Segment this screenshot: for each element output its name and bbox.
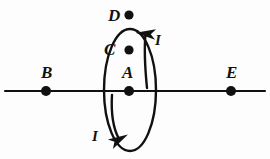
point-label-d: D — [108, 7, 120, 24]
current-label-upper: I — [155, 33, 161, 48]
point-dot-a — [124, 86, 134, 96]
point-label-b: B — [41, 64, 52, 81]
physics-diagram-figure: D C A B E I I — [0, 0, 270, 159]
point-dot-d — [124, 10, 133, 19]
current-arrow-down-icon — [112, 95, 119, 139]
point-dot-e — [226, 86, 236, 96]
point-label-c: C — [104, 41, 115, 58]
point-dot-b — [41, 86, 51, 96]
point-label-a: A — [122, 64, 133, 81]
point-label-e: E — [226, 64, 237, 81]
current-label-lower: I — [92, 129, 98, 144]
point-dot-c — [124, 45, 133, 54]
